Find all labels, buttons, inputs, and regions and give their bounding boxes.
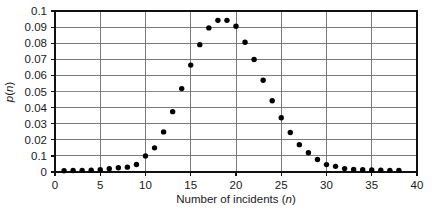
data-point — [333, 164, 338, 169]
y-tick-label: 0.1 — [31, 150, 47, 162]
data-point — [260, 78, 265, 83]
data-point — [270, 98, 275, 103]
data-point — [242, 40, 247, 45]
data-point — [197, 42, 202, 47]
x-tick-label: 10 — [139, 179, 152, 191]
data-point — [224, 18, 229, 23]
data-point — [387, 168, 392, 173]
data-point — [179, 86, 184, 91]
data-point — [215, 18, 220, 23]
data-point — [79, 168, 84, 173]
data-point — [161, 129, 166, 134]
y-tick-label: 0.09 — [25, 21, 47, 33]
data-point — [61, 168, 66, 173]
scatter-plot: 00.10.020.030.040.050.060.070.080.090.1 … — [0, 0, 433, 211]
y-tick-label: 0.08 — [25, 37, 47, 49]
data-point — [306, 150, 311, 155]
y-axis-title: p(n) — [3, 82, 15, 104]
data-point — [369, 167, 374, 172]
x-tick-label: 20 — [230, 179, 243, 191]
x-tick-label: 15 — [184, 179, 197, 191]
data-point — [233, 24, 238, 29]
data-point — [89, 168, 94, 173]
data-point — [297, 142, 302, 147]
data-point — [143, 153, 148, 158]
data-point — [378, 168, 383, 173]
data-point — [324, 162, 329, 167]
data-point — [279, 115, 284, 120]
chart-figure: 00.10.020.030.040.050.060.070.080.090.1 … — [0, 0, 433, 211]
y-tick-label: 0.05 — [25, 86, 47, 98]
y-tick-label: 0.1 — [31, 5, 47, 17]
data-point — [360, 167, 365, 172]
x-tick-label: 30 — [320, 179, 333, 191]
data-point — [396, 168, 401, 173]
data-point — [152, 145, 157, 150]
x-tick-label: 5 — [97, 179, 103, 191]
data-point — [134, 162, 139, 167]
data-point — [107, 166, 112, 171]
y-tick-label: 0.03 — [25, 118, 47, 130]
data-point — [351, 167, 356, 172]
y-tick-label: 0.02 — [25, 134, 47, 146]
data-point — [188, 62, 193, 67]
x-tick-label: 40 — [411, 179, 424, 191]
data-point — [206, 25, 211, 30]
y-tick-label: 0.07 — [25, 53, 47, 65]
data-point — [98, 167, 103, 172]
data-point — [288, 130, 293, 135]
y-tick-label: 0 — [41, 166, 47, 178]
y-tick-label: 0.06 — [25, 69, 47, 81]
y-tick-label: 0.04 — [25, 102, 48, 114]
x-tick-label: 35 — [365, 179, 378, 191]
x-tick-label: 0 — [52, 179, 58, 191]
data-point — [70, 168, 75, 173]
data-point — [315, 157, 320, 162]
x-axis-title: Number of incidents (n) — [176, 193, 296, 205]
data-point — [342, 166, 347, 171]
x-tick-label: 25 — [275, 179, 288, 191]
data-point — [170, 109, 175, 114]
data-point — [116, 165, 121, 170]
data-point — [125, 164, 130, 169]
data-point — [251, 57, 256, 62]
